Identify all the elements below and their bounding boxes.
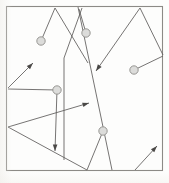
arrowhead-upper-right-down-tip: [94, 64, 101, 72]
arrowhead-lower-center-down-tip: [53, 144, 58, 151]
node-circle-center-left: [53, 86, 61, 94]
node-circle-upper-left: [37, 37, 45, 45]
node-circle-right: [130, 66, 138, 74]
arrowhead-lower-center-down: [53, 144, 58, 151]
nodes-layer: [37, 29, 138, 135]
arrowhead-upper-right-down: [94, 64, 101, 72]
node-circle-upper-mid: [82, 29, 90, 37]
diagram-canvas: [0, 0, 169, 183]
path-node-descend-arrow: [55, 90, 57, 151]
path-lower-left-long-diagonal: [8, 127, 87, 170]
path-right-node-link: [134, 56, 163, 70]
path-bottom-vee-left: [87, 131, 103, 170]
arrowhead-mid-right-tip: [82, 101, 90, 107]
path-steep-left-fall: [64, 8, 82, 160]
arrowhead-mid-right: [82, 101, 90, 107]
path-left-fan-to-node: [8, 89, 57, 90]
path-lower-left-to-right-arrow: [8, 103, 89, 127]
path-upper-right-vee: [96, 8, 163, 71]
arrowheads-layer: [27, 61, 159, 152]
diagram-root: [0, 0, 169, 183]
node-circle-lower-center: [99, 127, 107, 135]
